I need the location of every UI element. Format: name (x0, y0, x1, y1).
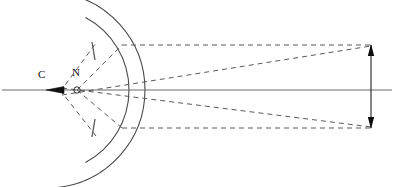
optics-canvas: C N (0, 0, 394, 187)
center-lower-radius (60, 90, 96, 136)
optics-diagram: C N (0, 0, 394, 187)
label-nodal-point: N (72, 66, 80, 78)
image-arrow-head-up-icon (368, 44, 374, 56)
center-of-curvature-arrowhead (46, 87, 64, 94)
label-center-of-curvature: C (38, 68, 45, 80)
upper-oblique-ray (62, 46, 371, 95)
lower-oblique-ray (62, 88, 371, 127)
nodal-upper-chief-ray (77, 45, 122, 90)
nodal-lower-chief-ray (77, 90, 122, 128)
